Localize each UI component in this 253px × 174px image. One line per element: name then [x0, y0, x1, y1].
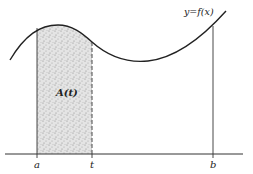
shaded-area-region: [10, 11, 226, 154]
curve-label: y=f(x): [183, 6, 214, 17]
axis-label-a: a: [34, 159, 40, 170]
axis-label-t: t: [90, 159, 95, 170]
area-label: A(t): [55, 87, 78, 98]
axis-label-b: b: [210, 159, 216, 170]
diagram-canvas: y=f(x) A(t) a t b: [0, 0, 253, 174]
